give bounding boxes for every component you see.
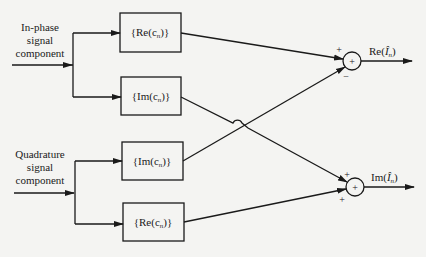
complex-filter-block-diagram: In-phase signal component Quadrature sig… xyxy=(0,0,426,257)
output-re-label: Re(În) xyxy=(369,45,396,59)
summer-1-top-sign: + xyxy=(336,44,342,55)
block-4-label: {Re(cn)} xyxy=(134,216,173,230)
block-1-to-summer-1 xyxy=(181,33,343,59)
quadrature-label-line-3: component xyxy=(16,174,65,186)
output-im-label: Im(În) xyxy=(371,171,398,185)
quadrature-label-line-1: Quadrature xyxy=(15,148,65,160)
block-3-label: {Im(cn)} xyxy=(133,155,172,169)
in-phase-label-line-3: component xyxy=(16,47,65,59)
in-phase-label: In-phase signal component xyxy=(16,21,65,59)
summer-2-plus-symbol: + xyxy=(352,182,358,193)
block-1-label: {Re(cn)} xyxy=(131,26,170,40)
in-phase-label-line-2: signal xyxy=(27,34,53,46)
summer-1-plus-symbol: + xyxy=(349,56,355,67)
block-3-to-summer-1 xyxy=(183,67,345,161)
in-phase-label-line-1: In-phase xyxy=(21,21,59,33)
summer-2-top-sign: + xyxy=(344,169,350,180)
block-2-label: {Im(cn)} xyxy=(132,90,171,104)
block-4-to-summer-2 xyxy=(184,189,346,222)
quadrature-label-line-2: signal xyxy=(27,161,53,173)
summer-1-bottom-sign: − xyxy=(343,71,349,82)
summer-2-bottom-sign: + xyxy=(339,194,345,205)
quadrature-label: Quadrature signal component xyxy=(15,148,65,186)
block-2-to-summer-2 xyxy=(181,97,347,182)
